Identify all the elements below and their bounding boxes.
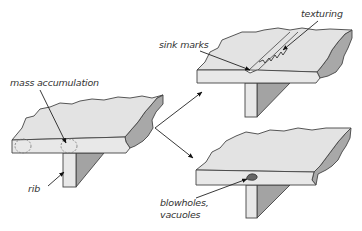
rib xyxy=(245,83,257,117)
label-mass-accumulation: mass accumulation xyxy=(10,77,99,88)
plate-front xyxy=(197,70,320,83)
label-sink-marks: sink marks xyxy=(159,39,209,50)
label-rib: rib xyxy=(28,183,40,194)
panel-blowholes: blowholes, vacuoles xyxy=(160,128,351,220)
panel-original: mass accumulation rib xyxy=(10,77,163,194)
plate-front xyxy=(12,137,130,153)
rib xyxy=(63,153,76,187)
panel-sink-marks: sink marks texturing xyxy=(159,8,352,117)
pointer-rib xyxy=(48,172,64,186)
defects-diagram: mass accumulation rib sink marks texturi… xyxy=(0,0,362,231)
arrow-to-blowholes xyxy=(155,128,193,158)
rib xyxy=(246,185,257,218)
rib-web xyxy=(257,83,290,117)
label-vacuoles: vacuoles xyxy=(160,209,201,220)
blowhole xyxy=(247,174,257,180)
label-texturing: texturing xyxy=(301,8,343,19)
rib-web xyxy=(257,185,290,218)
rib-web xyxy=(76,153,104,187)
label-blowholes: blowholes, xyxy=(160,197,209,208)
